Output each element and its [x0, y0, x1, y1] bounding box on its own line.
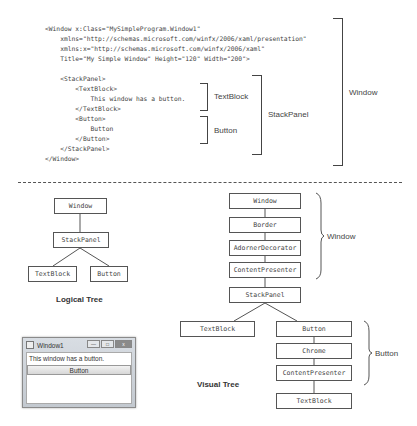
visual-node-window: Window	[229, 193, 301, 209]
close-button[interactable]: x	[115, 340, 132, 348]
logical-node-window: Window	[54, 198, 107, 214]
rendered-window: Window1 — □ x This window has a button. …	[22, 337, 136, 408]
visual-button-group-label: Button	[375, 349, 398, 358]
window-textblock: This window has a button.	[29, 355, 104, 362]
logical-node-stackpanel: StackPanel	[53, 232, 109, 248]
visual-node-textblock-left: TextBlock	[180, 321, 255, 337]
minimize-button[interactable]: —	[87, 340, 100, 348]
window-app-icon	[26, 341, 34, 349]
logical-node-button: Button	[90, 266, 128, 282]
window-title: Window1	[37, 342, 64, 349]
visual-node-textblock-button: TextBlock	[276, 393, 352, 409]
visual-node-stackpanel: StackPanel	[229, 287, 301, 303]
window-controls: — □ x	[87, 340, 132, 348]
visual-node-content-presenter-window: ContentPresenter	[229, 262, 301, 278]
visual-node-border: Border	[229, 217, 301, 233]
visual-tree-title: Visual Tree	[197, 380, 239, 389]
logical-tree-title: Logical Tree	[56, 295, 103, 304]
visual-node-chrome: Chrome	[276, 343, 352, 359]
window-button[interactable]: Button	[27, 365, 131, 375]
visual-window-group-label: Window	[327, 232, 355, 241]
visual-node-button: Button	[276, 321, 352, 337]
window-title-bar: Window1	[26, 340, 64, 350]
visual-node-adorner-decorator: AdornerDecorator	[229, 240, 301, 256]
visual-node-content-presenter-button: ContentPresenter	[276, 365, 352, 381]
window-client-area: This window has a button. Button	[26, 352, 132, 404]
maximize-button[interactable]: □	[101, 340, 114, 348]
logical-node-textblock: TextBlock	[28, 266, 77, 282]
